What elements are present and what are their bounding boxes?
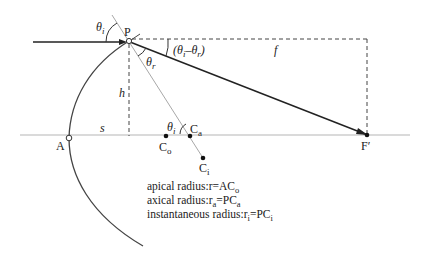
point-A-marker (66, 135, 72, 141)
point-F-marker (365, 133, 370, 138)
point-Co-marker (164, 134, 169, 139)
legend-axical-radius: axical radius:ra=PCa (147, 194, 241, 209)
legend-apical-radius: apical radius:r=ACo (147, 180, 239, 195)
label-theta-r: θr (146, 55, 156, 71)
label-theta-i-bottom: θi (167, 120, 176, 136)
point-Ci-marker (201, 156, 206, 161)
label-Ca: Ca (190, 122, 202, 138)
label-h: h (119, 86, 125, 100)
angle-arc-theta-i (106, 23, 117, 42)
label-f: f (274, 43, 279, 57)
lens-surface-curve (69, 41, 143, 246)
label-s: s (100, 121, 105, 135)
label-A: A (56, 139, 65, 153)
angle-arc-theta-r (138, 48, 146, 56)
label-theta-i: θi (96, 20, 105, 36)
label-Co: Co (159, 140, 172, 156)
point-P-marker (126, 38, 131, 43)
label-P: P (124, 25, 131, 39)
label-F-prime: F′ (361, 139, 371, 153)
legend-instantaneous-radius: instantaneous radius:ri=PCi (147, 208, 274, 223)
refracted-ray (130, 42, 365, 134)
label-deviation-angle: (θi–θr) (173, 43, 205, 59)
angle-arc-deviation (166, 39, 168, 56)
label-Ci: Ci (199, 161, 210, 177)
lens-refraction-diagram: P A F′ Co Ca Ci θi θr θi (θi–θr) h s f a… (0, 0, 427, 258)
